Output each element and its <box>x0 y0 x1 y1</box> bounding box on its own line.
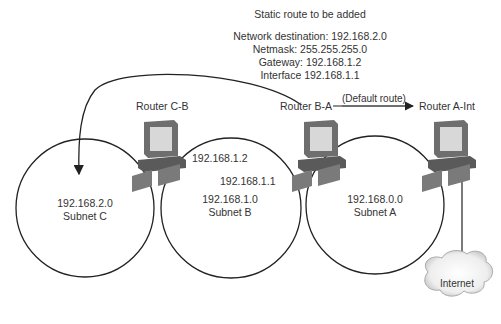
subnet-c-network: 192.168.2.0 <box>35 197 135 210</box>
subnet-b-network: 192.168.1.0 <box>180 193 280 206</box>
default-route-label: (Default route) <box>342 92 406 105</box>
subnet-a-name: Subnet A <box>325 206 425 219</box>
router-a-int-label: Router A-Int <box>419 100 475 113</box>
route-network-destination: Network destination: 192.168.2.0 <box>200 30 420 43</box>
internet-label: Internet <box>432 277 482 290</box>
router-b-a-label: Router B-A <box>280 100 332 113</box>
router-c-b-label: Router C-B <box>136 100 189 113</box>
route-netmask: Netmask: 255.255.255.0 <box>200 43 420 56</box>
diagram-title: Static route to be added <box>240 8 380 21</box>
subnet-b-name: Subnet B <box>180 206 280 219</box>
router-c-b-icon[interactable] <box>130 118 192 192</box>
router-a-int-icon[interactable] <box>420 118 482 192</box>
interface-cb-label: 192.168.1.2 <box>192 152 247 165</box>
subnet-c-name: Subnet C <box>35 210 135 223</box>
route-interface: Interface 192.168.1.1 <box>200 69 420 82</box>
subnet-a-network: 192.168.0.0 <box>325 193 425 206</box>
interface-ba-label: 192.168.1.1 <box>220 175 275 188</box>
router-b-a-icon[interactable] <box>290 118 352 192</box>
route-gateway: Gateway: 192.168.1.2 <box>200 56 420 69</box>
